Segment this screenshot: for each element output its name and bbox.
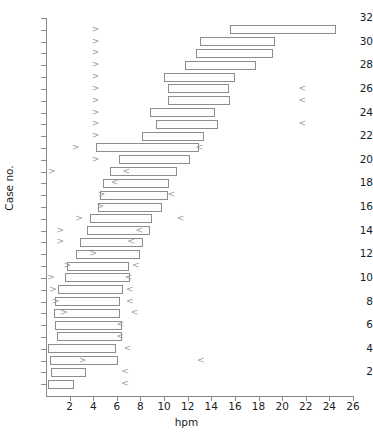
interval-bar xyxy=(164,73,235,82)
y-tick-label: 6 xyxy=(337,318,373,330)
left-censor-marker: > xyxy=(78,356,88,365)
right-censor-marker: < xyxy=(134,226,144,235)
left-censor-marker: > xyxy=(91,131,101,140)
left-censor-marker: > xyxy=(95,202,105,211)
y-tick xyxy=(41,302,46,303)
x-tick-label: 16 xyxy=(222,400,248,412)
interval-bar xyxy=(156,120,219,129)
interval-bar xyxy=(51,368,86,377)
y-tick-label: 22 xyxy=(337,129,373,141)
interval-bar xyxy=(150,108,215,117)
interval-bar xyxy=(48,380,74,389)
left-censor-marker: > xyxy=(55,226,65,235)
left-censor-marker: > xyxy=(48,285,58,294)
y-tick xyxy=(41,231,46,232)
right-censor-marker: < xyxy=(166,190,176,199)
interval-bar xyxy=(230,25,336,34)
y-tick xyxy=(41,361,46,362)
left-censor-marker: > xyxy=(71,143,81,152)
right-censor-marker: < xyxy=(297,119,307,128)
left-censor-marker: > xyxy=(96,190,106,199)
interval-bar xyxy=(55,321,121,330)
right-censor-marker: < xyxy=(115,332,125,341)
y-tick xyxy=(41,254,46,255)
right-censor-marker: < xyxy=(196,356,206,365)
y-tick xyxy=(41,53,46,54)
left-censor-marker: > xyxy=(55,237,65,246)
y-tick-label: 4 xyxy=(337,342,373,354)
right-censor-marker: < xyxy=(109,178,119,187)
y-tick xyxy=(41,325,46,326)
interval-bar xyxy=(76,250,141,259)
x-axis-label: hpm xyxy=(0,416,373,428)
y-tick xyxy=(41,42,46,43)
left-censor-marker: > xyxy=(91,60,101,69)
y-tick-label: 30 xyxy=(337,35,373,47)
x-tick-label: 14 xyxy=(198,400,224,412)
y-tick xyxy=(41,89,46,90)
y-tick xyxy=(41,349,46,350)
y-tick-label: 8 xyxy=(337,295,373,307)
left-censor-marker: > xyxy=(50,297,60,306)
interval-bar xyxy=(196,49,273,58)
interval-bar xyxy=(142,132,205,141)
left-censor-marker: > xyxy=(91,84,101,93)
y-tick xyxy=(41,160,46,161)
left-censor-marker: > xyxy=(59,308,69,317)
interval-bar xyxy=(185,61,256,70)
y-tick xyxy=(41,124,46,125)
left-censor-marker: > xyxy=(91,48,101,57)
right-censor-marker: < xyxy=(120,379,130,388)
y-tick xyxy=(41,77,46,78)
left-censor-marker: > xyxy=(91,96,101,105)
y-tick xyxy=(41,337,46,338)
y-tick xyxy=(41,219,46,220)
left-censor-marker: > xyxy=(91,119,101,128)
left-censor-marker: > xyxy=(91,155,101,164)
interval-bar xyxy=(58,285,123,294)
y-tick xyxy=(41,313,46,314)
x-tick-label: 22 xyxy=(293,400,319,412)
y-tick-label: 20 xyxy=(337,153,373,165)
x-tick-label: 20 xyxy=(269,400,295,412)
left-censor-marker: > xyxy=(47,167,57,176)
y-tick xyxy=(41,384,46,385)
left-censor-marker: > xyxy=(91,25,101,34)
y-tick xyxy=(41,242,46,243)
y-tick xyxy=(41,113,46,114)
y-tick-label: 16 xyxy=(337,200,373,212)
interval-bar xyxy=(65,273,130,282)
y-tick xyxy=(41,136,46,137)
right-censor-marker: < xyxy=(297,84,307,93)
interval-bar xyxy=(67,262,128,271)
right-censor-marker: < xyxy=(120,367,130,376)
interval-bar xyxy=(48,344,115,353)
y-tick xyxy=(41,290,46,291)
y-tick xyxy=(41,172,46,173)
interval-bar xyxy=(200,37,276,46)
left-censor-marker: > xyxy=(46,273,56,282)
y-tick-label: 14 xyxy=(337,224,373,236)
interval-bar xyxy=(55,297,120,306)
left-censor-marker: > xyxy=(88,249,98,258)
interval-bar xyxy=(168,96,231,105)
x-tick-label: 4 xyxy=(80,400,106,412)
interval-bar xyxy=(57,332,122,341)
x-tick-label: 18 xyxy=(246,400,272,412)
interval-bar xyxy=(119,155,190,164)
right-censor-marker: < xyxy=(125,297,135,306)
interval-bar xyxy=(100,191,167,200)
left-censor-marker: > xyxy=(91,37,101,46)
y-tick-label: 2 xyxy=(337,365,373,377)
y-tick xyxy=(41,18,46,19)
y-tick xyxy=(41,195,46,196)
y-tick-label: 12 xyxy=(337,247,373,259)
y-tick-label: 18 xyxy=(337,176,373,188)
right-censor-marker: < xyxy=(130,308,140,317)
right-censor-marker: < xyxy=(125,285,135,294)
x-tick-label: 2 xyxy=(57,400,83,412)
y-tick-label: 24 xyxy=(337,106,373,118)
right-censor-marker: < xyxy=(195,143,205,152)
right-censor-marker: < xyxy=(115,320,125,329)
y-tick-label: 26 xyxy=(337,82,373,94)
